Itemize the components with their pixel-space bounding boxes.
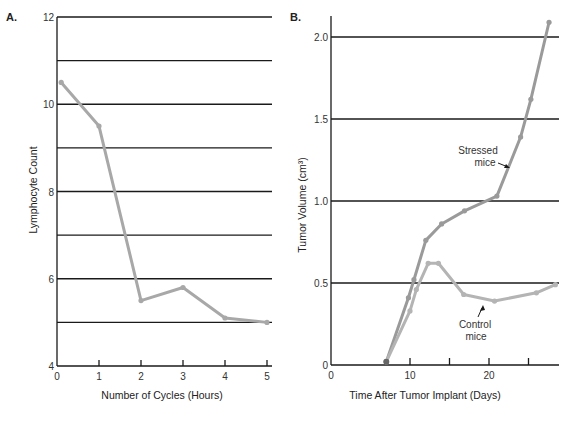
y-tick-label: 8 (48, 187, 54, 198)
data-point (423, 238, 428, 243)
panel-label: A. (6, 11, 17, 23)
data-point (462, 208, 467, 213)
data-point (553, 282, 558, 287)
data-point (461, 292, 466, 297)
arrowhead-icon (480, 305, 485, 311)
x-tick-label: 0 (54, 371, 60, 382)
data-point (407, 308, 412, 313)
chart-a: A.4681012012345Number of Cycles (Hours)L… (6, 11, 272, 401)
data-point (534, 290, 539, 295)
data-point (494, 193, 499, 198)
panel-label: B. (290, 11, 301, 23)
y-tick-label: 1.5 (314, 114, 328, 125)
x-tick-label: 3 (180, 371, 186, 382)
x-tick-label: 0 (328, 370, 334, 381)
data-point (518, 134, 523, 139)
x-axis-title: Time After Tumor Implant (Days) (349, 389, 500, 401)
x-tick-label: 5 (264, 371, 270, 382)
data-point (180, 285, 185, 290)
y-tick-label: 10 (43, 99, 55, 110)
data-point (406, 295, 411, 300)
start-point (383, 359, 389, 365)
data-point (546, 20, 551, 25)
x-tick-label: 10 (404, 370, 416, 381)
annotation-stressed: Stressed (458, 145, 497, 156)
data-point (59, 80, 64, 85)
data-point (411, 277, 416, 282)
y-tick-label: 12 (43, 12, 55, 23)
data-point (138, 298, 143, 303)
data-line (61, 82, 267, 322)
x-tick-label: 1 (96, 371, 102, 382)
y-tick-label: 0.5 (314, 278, 328, 289)
annotation-control: mice (465, 331, 487, 342)
data-point (492, 298, 497, 303)
y-tick-label: 2.0 (314, 32, 328, 43)
data-point (414, 287, 419, 292)
data-point (528, 97, 533, 102)
x-tick-label: 20 (483, 370, 495, 381)
data-point (96, 123, 101, 128)
figure-canvas: A.4681012012345Number of Cycles (Hours)L… (0, 0, 574, 422)
x-tick-label: 4 (222, 371, 228, 382)
x-tick-label: 2 (138, 371, 144, 382)
y-tick-label: 1.0 (314, 196, 328, 207)
annotation-stressed: mice (474, 157, 496, 168)
data-point (426, 261, 431, 266)
data-point (222, 315, 227, 320)
y-axis-title: Tumor Volume (cm³) (296, 157, 308, 252)
data-point (436, 261, 441, 266)
x-axis-title: Number of Cycles (Hours) (101, 389, 222, 401)
data-point (439, 221, 444, 226)
data-point (264, 320, 269, 325)
y-tick-label: 6 (48, 274, 54, 285)
annotation-control: Control (459, 319, 491, 330)
chart-b: B.00.51.01.52.001020Time After Tumor Imp… (290, 11, 559, 401)
y-axis-title: Lymphocyte Count (27, 146, 39, 233)
